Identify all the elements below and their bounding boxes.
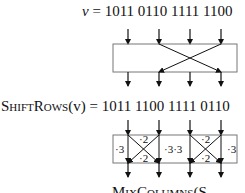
mixcolumns-block: ·3 ·2 ·2 ·3·3 ·2 ·2 ·3: [113, 120, 237, 177]
aes-round-diagram: ·3 ·2 ·2 ·3·3 ·2 ·2 ·3: [0, 0, 245, 193]
shiftrows-box: [113, 44, 237, 72]
mix-label-middle: ·3·3: [164, 143, 183, 155]
mix-label-col2-top: ·2: [201, 133, 210, 145]
mix-label-left: ·3: [115, 143, 125, 155]
shiftrows-block: [113, 29, 237, 86]
mix-label-col1-top: ·2: [139, 133, 148, 145]
mix-label-col2-bottom: ·2: [201, 152, 210, 164]
mix-label-right: ·3: [227, 143, 237, 155]
mix-label-col1-bottom: ·2: [139, 152, 148, 164]
